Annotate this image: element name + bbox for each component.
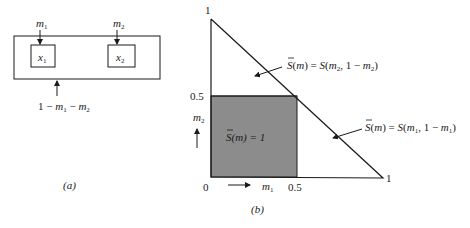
- panel-a: x1 x2 m1 m2 1 − m1 − m2 (a): [14, 17, 160, 192]
- y-axis-label: m2: [193, 111, 205, 125]
- annotation-upper: SS(m) = S(m(m) = S(m2, 1 − m2): [287, 59, 378, 73]
- x-axis-label: m1: [262, 180, 274, 194]
- upper-annotation-arrow-icon: [255, 67, 282, 76]
- y-tick-1: 1: [205, 4, 211, 16]
- bottom-input-label: 1 − m1 − m2: [38, 100, 90, 114]
- caption-b: (b): [251, 203, 264, 216]
- outer-system-box: [14, 36, 160, 79]
- annotation-lower: SS(m) = S(m(m) = S(m1, 1 − m1): [365, 121, 456, 135]
- figure-canvas: x1 x2 m1 m2 1 − m1 − m2 (a) S(m) = 1 1 0…: [0, 0, 470, 228]
- square-region-label: S(m) = 1: [226, 131, 265, 144]
- m1-input-label: m1: [36, 17, 48, 31]
- lower-annotation-arrow-icon: [333, 129, 362, 138]
- x2-label: x2: [115, 51, 125, 65]
- panel-b: S(m) = 1 1 0.5 0 0.5 1 m2 m1 SS(m) = S(m…: [190, 4, 456, 216]
- y-tick-half: 0.5: [190, 90, 204, 102]
- origin-label: 0: [203, 181, 209, 193]
- caption-a: (a): [63, 179, 76, 192]
- x-tick-half: 0.5: [288, 181, 302, 193]
- x-tick-1: 1: [386, 172, 392, 184]
- m2-input-label: m2: [113, 17, 125, 31]
- x1-label: x1: [37, 51, 47, 65]
